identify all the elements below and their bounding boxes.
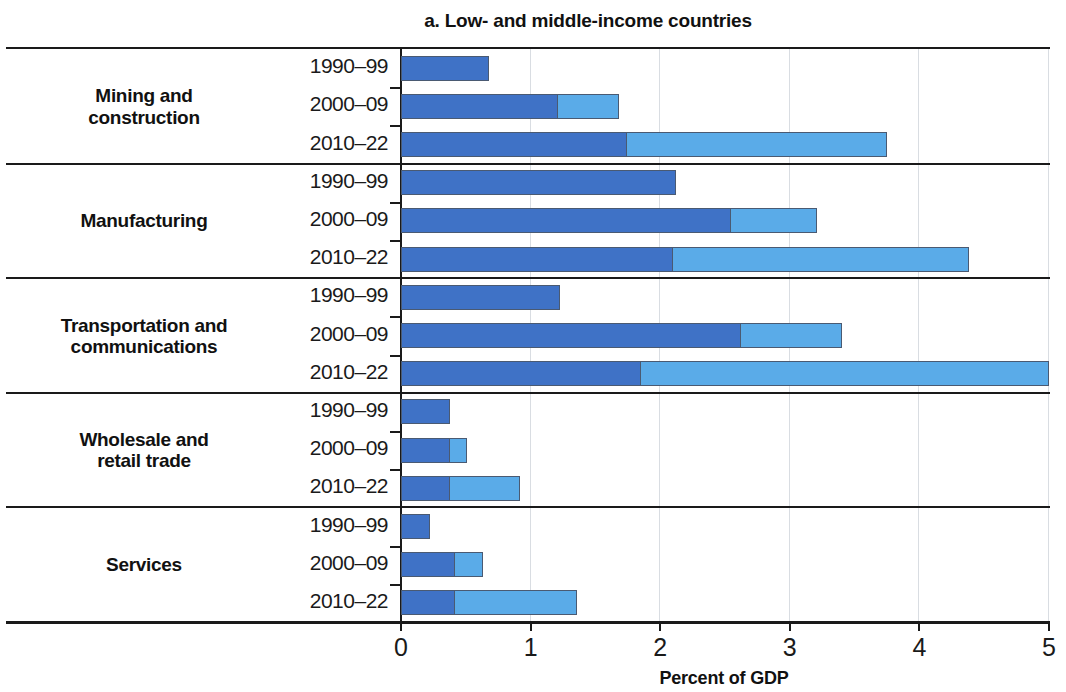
- gridline-4: [918, 49, 919, 622]
- bar: [401, 514, 430, 539]
- group-separator-top: [6, 47, 1050, 49]
- bar: [401, 56, 489, 81]
- bar-segment-2: [450, 438, 467, 463]
- period-label: 2000–09: [210, 551, 400, 575]
- bar-segment-2: [641, 361, 1049, 386]
- bar: [401, 208, 817, 233]
- x-tick-label-0: 0: [371, 633, 431, 662]
- bar: [401, 323, 842, 348]
- period-label: 1990–99: [210, 283, 400, 307]
- bar-segment-2: [558, 94, 619, 119]
- x-tick-mark-2: [659, 622, 661, 631]
- bar: [401, 438, 467, 463]
- period-label: 2000–09: [210, 436, 400, 460]
- x-tick-mark-5: [1048, 622, 1050, 631]
- bar-segment-1: [401, 514, 430, 539]
- period-tick: [390, 316, 401, 318]
- period-label: 1990–99: [210, 169, 400, 193]
- x-tick-mark-3: [789, 622, 791, 631]
- bar: [401, 476, 520, 501]
- period-label: 2010–22: [210, 474, 400, 498]
- x-tick-mark-0: [400, 622, 402, 631]
- period-label: 2010–22: [210, 131, 400, 155]
- bar: [401, 170, 676, 195]
- bar-segment-1: [401, 438, 450, 463]
- bar-segment-2: [450, 476, 520, 501]
- period-tick: [390, 546, 401, 548]
- bar-segment-1: [401, 552, 455, 577]
- gridline-5: [1048, 49, 1049, 622]
- bar-segment-1: [401, 361, 641, 386]
- period-label: 2010–22: [210, 245, 400, 269]
- period-tick: [390, 125, 401, 127]
- bar-segment-1: [401, 247, 673, 272]
- bar-segment-1: [401, 170, 676, 195]
- x-tick-mark-1: [530, 622, 532, 631]
- period-label: 2000–09: [210, 92, 400, 116]
- bar: [401, 94, 619, 119]
- bar-segment-1: [401, 132, 627, 157]
- period-tick: [390, 202, 401, 204]
- group-separator-2: [6, 392, 1050, 394]
- bar: [401, 285, 560, 310]
- bar-segment-2: [455, 552, 482, 577]
- bar-segment-1: [401, 399, 450, 424]
- group-separator-0: [6, 163, 1050, 165]
- period-tick: [390, 469, 401, 471]
- bar-segment-1: [401, 94, 558, 119]
- bar-segment-2: [673, 247, 968, 272]
- x-tick-label-4: 4: [889, 633, 949, 662]
- period-label: 1990–99: [210, 54, 400, 78]
- chart-page: a. Low- and middle-income countries Mini…: [0, 0, 1066, 692]
- bar-segment-2: [455, 590, 577, 615]
- bar: [401, 132, 887, 157]
- group-separator-4: [6, 621, 1050, 623]
- bar: [401, 552, 483, 577]
- period-tick: [390, 87, 401, 89]
- x-tick-mark-4: [918, 622, 920, 631]
- period-label: 2010–22: [210, 589, 400, 613]
- bar: [401, 399, 450, 424]
- bar: [401, 247, 969, 272]
- period-label: 2000–09: [210, 322, 400, 346]
- group-separator-3: [6, 506, 1050, 508]
- period-tick: [390, 431, 401, 433]
- period-tick: [390, 240, 401, 242]
- period-label: 1990–99: [210, 398, 400, 422]
- x-tick-label-1: 1: [501, 633, 561, 662]
- bar-segment-1: [401, 323, 741, 348]
- period-label: 2000–09: [210, 207, 400, 231]
- x-axis-title: Percent of GDP: [400, 668, 1048, 689]
- period-tick: [390, 584, 401, 586]
- period-label: 1990–99: [210, 513, 400, 537]
- bar-segment-1: [401, 208, 731, 233]
- period-tick: [390, 355, 401, 357]
- x-tick-label-2: 2: [630, 633, 690, 662]
- bar: [401, 590, 577, 615]
- bar-segment-2: [731, 208, 817, 233]
- group-separator-1: [6, 277, 1050, 279]
- bar: [401, 361, 1049, 386]
- bar-segment-1: [401, 56, 489, 81]
- bar-segment-1: [401, 285, 560, 310]
- period-label: 2010–22: [210, 360, 400, 384]
- bar-segment-1: [401, 590, 455, 615]
- bar-segment-2: [741, 323, 842, 348]
- bar-segment-1: [401, 476, 450, 501]
- bar-segment-2: [627, 132, 887, 157]
- x-tick-label-5: 5: [1019, 633, 1066, 662]
- chart-title: a. Low- and middle-income countries: [0, 10, 1066, 32]
- x-tick-label-3: 3: [760, 633, 820, 662]
